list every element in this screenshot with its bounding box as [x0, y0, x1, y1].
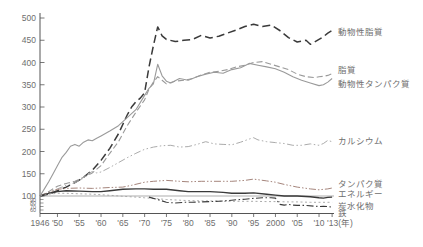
x-tick-label: 2000	[266, 218, 285, 228]
series-label-animal-protein: 動物性タンパク質	[338, 79, 410, 89]
nutrition-index-figure: 500450400350300250200150100908070601946'…	[0, 0, 423, 247]
x-tick-label: '55	[74, 218, 85, 228]
series-line-calcium	[40, 138, 332, 196]
series-line-animal-protein	[40, 63, 332, 196]
x-tick-label: '10	[314, 218, 325, 228]
series-label-fat: 脂質	[338, 65, 356, 75]
series-line-energy	[40, 189, 332, 198]
x-tick-label: '60	[96, 218, 107, 228]
y-tick-label: 450	[22, 35, 36, 45]
y-tick-label: 400	[22, 58, 36, 68]
y-sub-tick-label: 60	[30, 207, 36, 213]
x-tick-label: 1946	[31, 218, 50, 228]
series-line-protein	[40, 179, 332, 196]
y-tick-label: 350	[22, 80, 36, 90]
series-line-carbohydrate	[40, 193, 332, 202]
x-tick-label: '50	[52, 218, 63, 228]
y-tick-label: 300	[22, 102, 36, 112]
x-tick-label: '65	[117, 218, 128, 228]
x-tick-label: '05	[292, 218, 303, 228]
y-tick-label: 250	[22, 124, 36, 134]
series-label-animal-fat: 動物性脂質	[338, 27, 383, 37]
series-label-energy: エネルギー	[338, 189, 383, 199]
series-line-animal-fat	[40, 24, 332, 196]
series-label-calcium: カルシウム	[338, 136, 383, 146]
series-line-fat	[40, 62, 332, 196]
y-tick-label: 200	[22, 147, 36, 157]
series-label-protein: タンパク質	[338, 179, 383, 189]
x-tick-label: '75	[161, 218, 172, 228]
x-tick-label: '70	[139, 218, 150, 228]
nutrition-index-line-chart: 500450400350300250200150100908070601946'…	[0, 0, 423, 247]
y-tick-label: 500	[22, 13, 36, 23]
x-tick-label: '80	[183, 218, 194, 228]
x-tick-label: '95	[248, 218, 259, 228]
series-label-iron: 鉄	[338, 208, 347, 218]
x-tick-label: '85	[205, 218, 216, 228]
x-tick-label: '90	[226, 218, 237, 228]
series-line-iron	[149, 197, 332, 207]
x-tick-label: '13(年)	[327, 218, 353, 228]
y-tick-label: 150	[22, 169, 36, 179]
